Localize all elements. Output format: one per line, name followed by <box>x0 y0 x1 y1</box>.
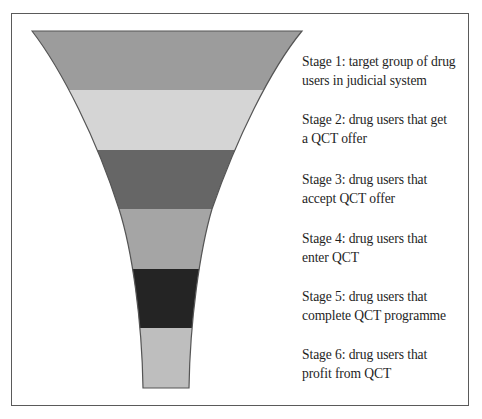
stage-label-6: Stage 6: drug users that profit from QCT <box>302 345 468 383</box>
stage-2-line-1: Stage 2: drug users that get <box>302 110 468 129</box>
stage-labels: Stage 1: target group of drug users in j… <box>302 0 468 419</box>
stage-6-line-1: Stage 6: drug users that <box>302 345 468 364</box>
stage-label-5: Stage 5: drug users that complete QCT pr… <box>302 287 468 325</box>
stage-label-2: Stage 2: drug users that get a QCT offer <box>302 110 468 148</box>
stage-5-line-2: complete QCT programme <box>302 306 468 325</box>
stage-label-1: Stage 1: target group of drug users in j… <box>302 52 468 90</box>
stage-3-line-1: Stage 3: drug users that <box>302 170 468 189</box>
stage-2-line-2: a QCT offer <box>302 129 468 148</box>
stage-label-3: Stage 3: drug users that accept QCT offe… <box>302 170 468 208</box>
stage-1-line-1: Stage 1: target group of drug <box>302 52 468 71</box>
stage-4-line-1: Stage 4: drug users that <box>302 229 468 248</box>
stage-label-4: Stage 4: drug users that enter QCT <box>302 229 468 267</box>
stage-1-line-2: users in judicial system <box>302 71 468 90</box>
stage-5-line-1: Stage 5: drug users that <box>302 287 468 306</box>
stage-6-line-2: profit from QCT <box>302 364 468 383</box>
stage-3-line-2: accept QCT offer <box>302 189 468 208</box>
stage-4-line-2: enter QCT <box>302 248 468 267</box>
